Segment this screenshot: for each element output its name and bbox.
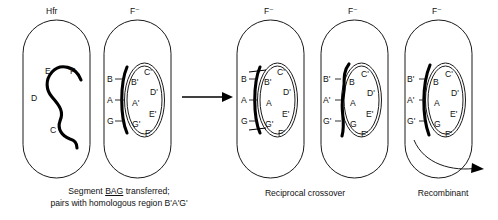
- gene-label-Cp-exchanged: C': [361, 70, 369, 79]
- gene-label-Fp-exchanged: F': [361, 130, 368, 139]
- gene-label-Gp-pairing: G': [265, 120, 273, 129]
- gene-label-Dp-exchanged: D': [367, 89, 375, 98]
- gene-label-Bp-recipient: B': [131, 78, 138, 87]
- caption-transfer-line2: pairs with homologous region B'A'G': [0, 198, 238, 210]
- gene-label-C-hfr: C: [50, 126, 56, 135]
- gene-label-Bp-pairing: B': [264, 78, 271, 87]
- gene-label-B-recipient: B: [107, 75, 113, 84]
- gene-label-Dp-recipient: D': [150, 88, 158, 97]
- gene-label-Gp-recipient: G': [132, 120, 140, 129]
- hfr-recombination-figure: Hfr E F D C F⁻ B A G C' B' D' A' E' G' F…: [0, 0, 498, 220]
- gene-label-F-hfr: F: [70, 67, 75, 76]
- caption-transfer-line1: Segment BAG transferred;: [0, 186, 238, 198]
- gene-label-Ap-outer-exchanged: A': [323, 96, 330, 105]
- gene-label-Ep-recipient: E': [149, 110, 156, 119]
- gene-label-A-inner-exchanged: A: [350, 99, 356, 108]
- gene-label-Ep-pairing: E': [282, 110, 289, 119]
- gene-label-Dp-recombinant: D': [451, 89, 459, 98]
- gene-label-D-hfr: D: [31, 94, 37, 103]
- gene-label-G-inner-exchanged: G: [350, 120, 357, 129]
- gene-label-A-pairing: A: [241, 96, 247, 105]
- flow-arrow-head: [222, 92, 233, 102]
- gene-label-E-hfr: E: [45, 67, 51, 76]
- gene-label-Gp-outer-recombinant: G': [407, 117, 415, 126]
- gene-label-A-inner-recombinant: A: [434, 99, 440, 108]
- cell-type-label-recipient: F⁻: [130, 6, 140, 16]
- gene-label-G-pairing: G: [241, 117, 248, 126]
- gene-label-Cp-recipient: C': [144, 68, 152, 77]
- gene-label-Ap-recipient: A': [132, 99, 139, 108]
- caption-transfer: Segment BAG transferred; pairs with homo…: [0, 186, 238, 209]
- gene-label-Ep-exchanged: E': [366, 110, 373, 119]
- gene-label-Fp-recipient: F': [145, 129, 152, 138]
- cell-type-label-pairing: F⁻: [264, 6, 274, 16]
- gene-label-Cp-recombinant: C': [445, 70, 453, 79]
- gene-label-A-recipient: A: [107, 96, 113, 105]
- process-flow-arrow: [182, 92, 233, 102]
- cell-type-label-hfr: Hfr: [46, 6, 57, 16]
- gene-label-B-inner-recombinant: B: [433, 78, 439, 87]
- gene-label-Bp-outer-exchanged: B': [323, 75, 330, 84]
- gene-label-G-recipient: G: [107, 117, 114, 126]
- exit-arrow-head: [471, 163, 484, 173]
- gene-label-Gp-outer-exchanged: G': [323, 117, 331, 126]
- gene-label-Cp-pairing: C': [277, 68, 285, 77]
- gene-label-B-inner-exchanged: B: [349, 78, 355, 87]
- gene-label-Fp-recombinant: F': [445, 130, 452, 139]
- gene-label-Dp-pairing: D': [283, 88, 291, 97]
- gene-label-G-inner-recombinant: G: [434, 120, 441, 129]
- caption-reciprocal-crossover: Reciprocal crossover: [235, 188, 375, 199]
- caption-transfer-line1-post: transferred;: [123, 186, 169, 196]
- gene-label-Ap-outer-recombinant: A': [407, 96, 414, 105]
- gene-label-Fp-pairing: F': [278, 129, 285, 138]
- cell-recombinant-group: [405, 20, 484, 178]
- caption-recombinant: Recombinant: [388, 188, 498, 199]
- gene-label-A-inner-pairing: A: [266, 99, 272, 108]
- gene-label-Bp-outer-recombinant: B': [407, 75, 414, 84]
- cell-type-label-recombinant: F⁻: [432, 6, 442, 16]
- gene-label-Ep-recombinant: E': [450, 110, 457, 119]
- gene-label-B-pairing: B: [241, 75, 247, 84]
- cell-type-label-exchanged: F⁻: [348, 6, 358, 16]
- caption-transfer-line1-pre: Segment: [68, 186, 105, 196]
- caption-transfer-segment-bag: BAG: [105, 186, 123, 196]
